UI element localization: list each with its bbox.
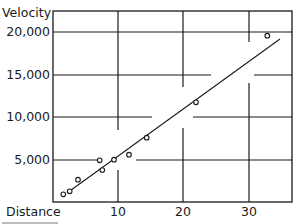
velocity-distance-chart: Velocity Distance 20,000 15,000 10,000 5… (0, 0, 301, 224)
y-axis-label: Velocity (2, 5, 52, 20)
x-axis-label: Distance (6, 204, 61, 219)
clipped-caption-fragment (2, 222, 58, 224)
y-tick-5000: 5,000 (14, 152, 50, 167)
data-point (265, 33, 270, 38)
x-tick-30: 30 (241, 204, 257, 219)
x-tick-10: 10 (110, 204, 126, 219)
data-point (76, 177, 81, 182)
vertical-gridlines (118, 11, 249, 202)
data-point (100, 168, 105, 173)
x-tick-20: 20 (175, 204, 191, 219)
y-tick-15000: 15,000 (6, 67, 50, 82)
data-point (112, 157, 117, 162)
horizontal-gridlines (53, 32, 292, 160)
data-point (144, 135, 149, 140)
data-point (67, 189, 72, 194)
data-point (97, 158, 102, 163)
y-tick-10000: 10,000 (6, 109, 50, 124)
y-tick-20000: 20,000 (6, 24, 50, 39)
plot-frame (53, 11, 292, 202)
data-point (61, 192, 66, 197)
fit-line (67, 39, 280, 193)
data-point (194, 100, 199, 105)
data-points (61, 33, 270, 196)
data-point (127, 152, 132, 157)
